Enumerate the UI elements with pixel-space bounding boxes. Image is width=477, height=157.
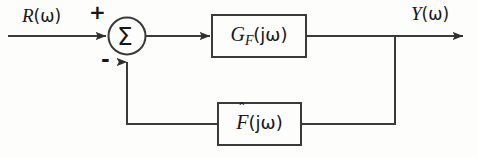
output-label-argument: (ω) — [422, 4, 450, 24]
feedback-block-argument: (jω) — [249, 112, 283, 133]
output-signal-label: Y(ω) — [411, 4, 449, 23]
summing-junction-plus-sign: + — [89, 2, 106, 22]
feedback-block-main-group: ˆF — [236, 112, 248, 132]
input-label-variable: R — [22, 5, 34, 26]
forward-block-argument: (jω) — [253, 24, 287, 45]
feedback-block-label: ˆF(jω) — [218, 112, 301, 132]
block-diagram: R(ω) Y(ω) + - Σ GF(jω) ˆF(jω) — [0, 0, 477, 157]
input-label-argument: (ω) — [34, 6, 62, 26]
feedback-block-hat-accent: ˆ — [238, 103, 246, 118]
output-label-variable: Y — [411, 3, 422, 24]
forward-block-main-symbol: G — [231, 23, 245, 45]
summing-junction-circle — [109, 18, 146, 55]
input-signal-label: R(ω) — [22, 6, 61, 25]
forward-block-label: GF(jω) — [212, 24, 306, 48]
summing-junction-minus-sign: - — [101, 50, 110, 71]
